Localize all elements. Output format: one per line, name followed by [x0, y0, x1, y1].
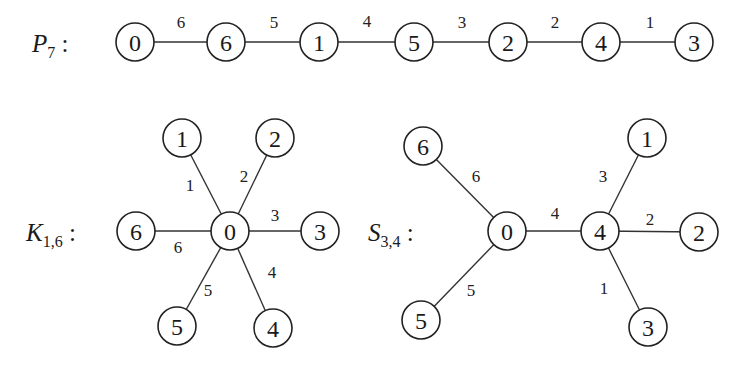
node-label: 4 — [267, 316, 279, 342]
node-k16-3: 3 — [301, 212, 339, 250]
node-label: 0 — [224, 219, 236, 245]
node-k16-4: 4 — [254, 309, 292, 347]
node-s34-6: 6 — [404, 127, 442, 165]
node-p7-6: 6 — [207, 23, 245, 61]
node-label: 1 — [176, 126, 188, 152]
edges-layer — [135, 42, 699, 328]
graph-title-subscript: 1,6 — [43, 233, 63, 250]
edge-weight-label: 1 — [186, 176, 195, 195]
node-label: 6 — [220, 30, 232, 56]
graph-title-colon: : — [55, 30, 68, 57]
node-label: 5 — [408, 30, 420, 56]
graph-title-main: S — [368, 219, 381, 246]
edge-weight-label: 4 — [268, 263, 277, 282]
node-label: 3 — [642, 315, 654, 341]
node-s34-1: 1 — [628, 119, 666, 157]
node-p7-1: 1 — [300, 23, 338, 61]
graph-title-main: K — [25, 219, 44, 246]
node-s34-5: 5 — [402, 301, 440, 339]
node-label: 0 — [129, 30, 141, 56]
graph-diagram-canvas: 061524301234560465123 P7 :654321K1,6 :12… — [0, 0, 748, 373]
edge-weight-label: 2 — [551, 13, 560, 32]
node-p7-3: 3 — [675, 23, 713, 61]
edge-weight-label: 6 — [472, 167, 481, 186]
node-label: 1 — [641, 126, 653, 152]
edge-weight-label: 3 — [458, 13, 467, 32]
edge-weight-label: 1 — [646, 13, 655, 32]
node-p7-5: 5 — [395, 23, 433, 61]
node-label: 3 — [314, 219, 326, 245]
node-label: 2 — [693, 220, 705, 246]
node-k16-5: 5 — [158, 307, 196, 345]
node-p7-4: 4 — [582, 23, 620, 61]
node-k16-1: 1 — [163, 119, 201, 157]
node-label: 2 — [502, 30, 514, 56]
node-p7-2: 2 — [489, 23, 527, 61]
node-label: 3 — [688, 30, 700, 56]
edge-weight-label: 3 — [271, 206, 280, 225]
node-label: 5 — [415, 308, 427, 334]
node-label: 6 — [417, 134, 429, 160]
node-s34-3: 3 — [629, 308, 667, 346]
node-p7-0: 0 — [116, 23, 154, 61]
node-label: 4 — [594, 219, 606, 245]
edge-weight-label: 1 — [600, 279, 609, 298]
edge-weight-label: 2 — [240, 167, 249, 186]
node-s34-4: 4 — [581, 212, 619, 250]
edge-weight-label: 5 — [270, 13, 279, 32]
graph-title-colon: : — [401, 219, 414, 246]
node-s34-0: 0 — [488, 212, 526, 250]
edge-weight-label: 4 — [551, 204, 560, 223]
edge-weight-label: 2 — [646, 210, 655, 229]
node-label: 0 — [501, 219, 513, 245]
graph-title-subscript: 3,4 — [381, 233, 401, 250]
graph-title-main: P — [31, 30, 47, 57]
graph-title-colon: : — [63, 219, 76, 246]
edge-weight-label: 4 — [363, 12, 372, 31]
edge-weight-label: 5 — [204, 281, 213, 300]
node-s34-2: 2 — [680, 213, 718, 251]
graph-title-subscript: 7 — [47, 44, 55, 61]
graph-title-p7: P7 : — [31, 30, 68, 61]
edge-weight-label: 3 — [599, 167, 608, 186]
graph-title-k16: K1,6 : — [25, 219, 76, 250]
edge-weight-label: 6 — [177, 13, 186, 32]
edge-weight-label: 6 — [174, 238, 183, 257]
node-k16-0: 0 — [211, 212, 249, 250]
labels-layer: P7 :654321K1,6 :123456S3,4 :465321 — [25, 12, 654, 300]
node-k16-2: 2 — [256, 119, 294, 157]
node-label: 4 — [595, 30, 607, 56]
node-label: 5 — [171, 314, 183, 340]
node-label: 1 — [313, 30, 325, 56]
edge-weight-label: 5 — [467, 281, 476, 300]
node-k16-6: 6 — [117, 212, 155, 250]
node-label: 2 — [269, 126, 281, 152]
node-label: 6 — [130, 219, 142, 245]
graph-title-s34: S3,4 : — [368, 219, 414, 250]
